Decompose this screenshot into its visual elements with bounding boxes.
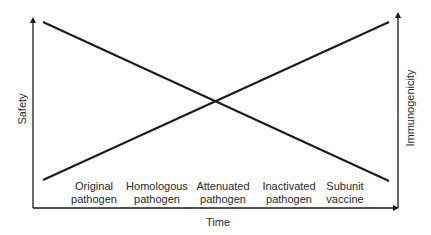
right-axis-title: Immunogenicity bbox=[404, 69, 416, 146]
category-label-inactivated: Inactivated pathogen bbox=[262, 180, 315, 206]
category-line1: Attenuated bbox=[196, 180, 249, 193]
category-label-homologous: Homologous pathogen bbox=[126, 180, 188, 206]
category-line2: vaccine bbox=[326, 193, 363, 206]
category-line2: pathogen bbox=[262, 193, 315, 206]
left-axis-title: Safety bbox=[16, 93, 28, 124]
category-line1: Homologous bbox=[126, 180, 188, 193]
category-line1: Original bbox=[71, 180, 117, 193]
x-axis-title: Time bbox=[206, 216, 230, 228]
category-line2: pathogen bbox=[126, 193, 188, 206]
category-line2: pathogen bbox=[71, 193, 117, 206]
category-label-subunit: Subunit vaccine bbox=[326, 180, 363, 206]
category-label-original: Original pathogen bbox=[71, 180, 117, 206]
category-label-attenuated: Attenuated pathogen bbox=[196, 180, 249, 206]
category-line2: pathogen bbox=[196, 193, 249, 206]
category-line1: Inactivated bbox=[262, 180, 315, 193]
category-line1: Subunit bbox=[326, 180, 363, 193]
